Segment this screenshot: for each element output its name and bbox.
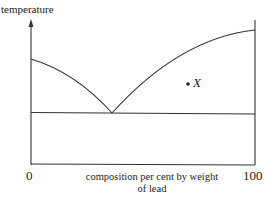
x-axis-label: composition per cent by weight of lead xyxy=(82,171,222,195)
point-x-label: X xyxy=(193,77,201,89)
eutectic-line xyxy=(31,113,255,115)
y-axis-arrow-icon xyxy=(29,19,34,27)
x-tick-100: 100 xyxy=(243,170,263,182)
right-liquidus-curve xyxy=(112,30,255,113)
x-axis xyxy=(31,164,255,165)
left-liquidus-curve xyxy=(31,59,112,113)
y-axis-label: temperature xyxy=(1,3,54,15)
point-x-marker xyxy=(186,82,190,86)
x-tick-0: 0 xyxy=(26,170,33,182)
